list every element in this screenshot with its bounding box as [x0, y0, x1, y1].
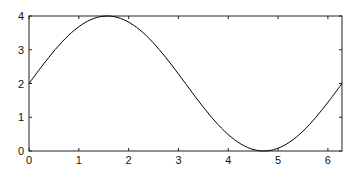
x-tick-label: 4: [225, 154, 231, 166]
x-tick-label: 0: [26, 154, 32, 166]
x-tick-label: 3: [175, 154, 181, 166]
y-tick-label: 2: [18, 78, 24, 90]
x-tick-label: 5: [275, 154, 281, 166]
y-tick-label: 1: [18, 111, 24, 123]
sine-chart: 012345601234: [0, 0, 356, 172]
x-tick-label: 1: [76, 154, 82, 166]
x-tick-label: 2: [126, 154, 132, 166]
y-tick-label: 0: [18, 145, 24, 157]
y-tick-label: 4: [18, 10, 24, 22]
x-tick-label: 6: [325, 154, 331, 166]
y-tick-label: 3: [18, 44, 24, 56]
